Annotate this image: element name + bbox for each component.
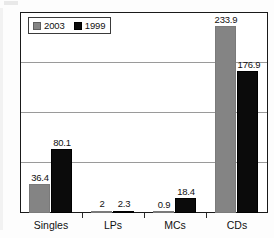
bar-1999-mcs[interactable] (175, 198, 196, 213)
chart-canvas: 36.4 80.1 2 2.3 0.9 18.4 233.9 176.9 (0, 0, 274, 238)
bar-value-1999-singles: 80.1 (45, 138, 79, 148)
bar-1999-cds[interactable] (237, 71, 258, 213)
x-label-singles: Singles (23, 219, 79, 232)
bar-value-1999-lps: 2.3 (107, 199, 141, 209)
bar-2003-cds[interactable] (215, 26, 236, 213)
bar-2003-singles[interactable] (29, 184, 50, 213)
x-label-cds: CDs (209, 219, 265, 232)
bar-value-1999-cds: 176.9 (230, 60, 268, 70)
scan-edge-artifact (0, 8, 3, 230)
bar-group-singles: 36.4 80.1 (26, 12, 82, 213)
x-tick-1 (82, 213, 83, 218)
x-axis: Singles LPs MCs CDs (20, 213, 268, 238)
legend-item-2003[interactable]: 2003 (33, 21, 65, 31)
bar-group-lps: 2 2.3 (88, 12, 144, 213)
x-label-mcs: MCs (147, 219, 203, 232)
x-tick-3 (206, 213, 207, 218)
legend-label-2003: 2003 (44, 21, 65, 31)
bar-value-2003-cds: 233.9 (207, 15, 245, 25)
legend-label-1999: 1999 (85, 21, 106, 31)
scan-artifact (4, 1, 18, 5)
legend-item-1999[interactable]: 1999 (74, 21, 106, 31)
bar-value-1999-mcs: 18.4 (169, 187, 203, 197)
bar-group-cds: 233.9 176.9 (212, 12, 268, 213)
legend-swatch-1999-icon (74, 22, 82, 30)
bars-layer: 36.4 80.1 2 2.3 0.9 18.4 233.9 176.9 (20, 12, 268, 213)
legend-swatch-2003-icon (33, 22, 41, 30)
bar-1999-singles[interactable] (51, 149, 72, 213)
bar-group-mcs: 0.9 18.4 (150, 12, 206, 213)
legend: 2003 1999 (28, 17, 111, 34)
x-label-lps: LPs (85, 219, 141, 232)
x-tick-2 (144, 213, 145, 218)
